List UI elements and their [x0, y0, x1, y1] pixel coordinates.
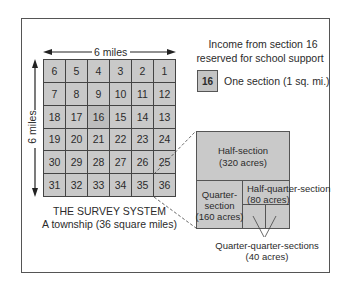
section-cell: 14 [132, 106, 153, 128]
school-section-cell: 16 [88, 106, 109, 128]
section-cell: 3 [110, 60, 131, 82]
width-label: 6 miles [92, 46, 129, 58]
section-cell: 6 [44, 60, 65, 82]
half-section [196, 131, 290, 181]
section-cell: 20 [66, 129, 87, 151]
legend-note-line1: Income from section 16 [196, 38, 330, 50]
section-cell: 11 [132, 83, 153, 105]
section-cell: 30 [44, 151, 65, 173]
quarter-section-label-1: Quarter- [196, 189, 243, 200]
half-quarter-section-acres: (80 acres) [247, 194, 290, 205]
section-cell: 4 [88, 60, 109, 82]
section-cell: 22 [110, 129, 131, 151]
section-cell: 13 [154, 106, 175, 128]
section-cell: 2 [132, 60, 153, 82]
half-section-acres: (320 acres) [196, 157, 290, 168]
legend-description: One section (1 sq. mi.) [224, 75, 330, 87]
diagram-title: THE SURVEY SYSTEM [43, 205, 176, 217]
section-cell: 19 [44, 129, 65, 151]
section-cell: 35 [132, 174, 153, 196]
half-section-label: Half-section [196, 145, 290, 156]
quarter-quarter-section-east [265, 204, 290, 229]
section-cell: 23 [132, 129, 153, 151]
section-cell: 18 [44, 106, 65, 128]
height-label: 6 miles [26, 108, 38, 145]
section-cell: 5 [66, 60, 87, 82]
section-cell: 15 [110, 106, 131, 128]
section-cell: 31 [44, 174, 65, 196]
quarter-quarter-sections-acres: (40 acres) [212, 251, 322, 262]
half-quarter-section-label: Half-quarter-section [247, 183, 330, 194]
section-cell: 34 [110, 174, 131, 196]
section-cell: 7 [44, 83, 65, 105]
section-cell: 1 [154, 60, 175, 82]
section-cell: 9 [88, 83, 109, 105]
quarter-quarter-section-west [242, 204, 266, 229]
section-cell: 28 [88, 151, 109, 173]
section-cell: 8 [66, 83, 87, 105]
diagram-subtitle: A township (36 square miles) [33, 218, 186, 230]
section-cell: 12 [154, 83, 175, 105]
quarter-section-label-2: section [196, 200, 243, 211]
section-cell: 32 [66, 174, 87, 196]
section-cell: 27 [110, 151, 131, 173]
quarter-quarter-sections-label: Quarter-quarter-sections [212, 240, 322, 251]
section-cell: 25 [154, 151, 175, 173]
legend-note-line2: reserved for school support [190, 52, 330, 64]
township-grid: 6 5 4 3 2 1 7 8 9 10 11 12 18 17 16 15 1… [43, 59, 176, 197]
section-cell: 17 [66, 106, 87, 128]
quarter-section-acres: (160 acres) [194, 211, 245, 222]
legend-section-box: 16 [197, 70, 218, 92]
section-cell: 21 [88, 129, 109, 151]
section-cell: 29 [66, 151, 87, 173]
section-cell: 36 [154, 174, 175, 196]
section-cell: 24 [154, 129, 175, 151]
section-cell: 26 [132, 151, 153, 173]
section-cell: 33 [88, 174, 109, 196]
section-cell: 10 [110, 83, 131, 105]
